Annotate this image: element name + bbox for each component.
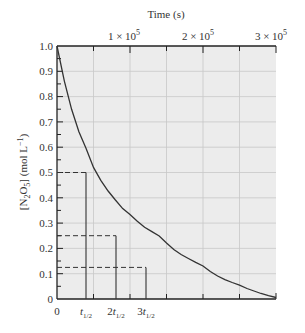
svg-text:0.8: 0.8 bbox=[39, 90, 53, 102]
svg-text:0.1: 0.1 bbox=[39, 268, 53, 280]
svg-text:0.7: 0.7 bbox=[39, 116, 53, 128]
svg-text:1.0: 1.0 bbox=[39, 40, 53, 52]
x-bottom-label-2t-half: 2t1/2 bbox=[107, 305, 125, 320]
y-tick-labels: 1.0 0.9 0.8 0.7 0.6 0.5 0.4 0.3 0.2 0.1 … bbox=[39, 40, 53, 305]
x-bottom-label-t-half: t1/2 bbox=[80, 305, 93, 320]
x-bottom-label-0: 0 bbox=[54, 305, 60, 317]
x-top-tick-label-2: 2 × 105 bbox=[182, 28, 214, 42]
svg-text:0: 0 bbox=[48, 293, 54, 305]
svg-text:0.2: 0.2 bbox=[39, 242, 53, 254]
svg-text:0.3: 0.3 bbox=[39, 217, 53, 229]
chart: Time (s) 1 × 105 2 × 105 3 × 105 1.0 0.9… bbox=[0, 0, 305, 333]
svg-text:0.5: 0.5 bbox=[39, 166, 53, 178]
svg-text:0.4: 0.4 bbox=[39, 192, 53, 204]
x-bottom-label-3t-half: 3t1/2 bbox=[137, 305, 155, 320]
svg-text:0.9: 0.9 bbox=[39, 65, 53, 77]
x-top-tick-label-3: 3 × 105 bbox=[255, 28, 287, 42]
svg-text:0.6: 0.6 bbox=[39, 141, 53, 153]
y-axis-title: [N2O5] (mol L−1) bbox=[16, 133, 32, 210]
x-axis-title: Time (s) bbox=[147, 8, 185, 21]
x-top-tick-label-1: 1 × 105 bbox=[108, 28, 140, 42]
